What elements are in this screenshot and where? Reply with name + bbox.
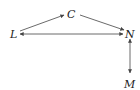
- node-m: M: [123, 78, 136, 90]
- edge-c-to-n: [80, 15, 124, 30]
- node-n: N: [124, 28, 135, 41]
- edge-l-to-c: [20, 15, 64, 31]
- causal-diagram: L C N M: [0, 0, 140, 90]
- node-c: C: [67, 8, 76, 21]
- node-l: L: [9, 28, 17, 41]
